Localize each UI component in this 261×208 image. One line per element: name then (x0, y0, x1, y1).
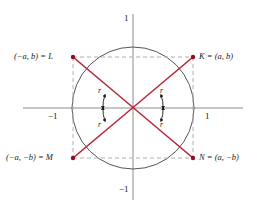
angle-label-lower-right: r (160, 121, 163, 129)
point-label-L: (−a, b) = L (14, 52, 53, 61)
point-label-N: N = (a, −b) (199, 153, 239, 162)
angle-label-upper-right: r (160, 87, 163, 95)
angle-label-lower-left: r (98, 121, 101, 129)
x-axis-tick-left: −1 (48, 112, 58, 121)
x-axis-tick-right: 1 (205, 112, 210, 121)
angle-label-upper-left: r (98, 87, 101, 95)
diagram-canvas (0, 0, 261, 208)
point-label-M: (−a, −b) = M (6, 153, 53, 162)
vertex-dot-N (191, 156, 195, 160)
point-label-K: K = (a, b) (199, 52, 233, 61)
figure-container: (−a, b) = L K = (a, b) (−a, −b) = M N = … (0, 0, 261, 208)
y-axis-tick-top: 1 (124, 14, 129, 23)
vertex-dot-K (191, 55, 195, 59)
vertex-dot-L (71, 55, 75, 59)
angle-arc-upper-right (161, 95, 163, 108)
angle-arc-lower-left (103, 108, 105, 121)
angle-arc-upper-left (103, 95, 105, 108)
vertex-dot-M (71, 156, 75, 160)
y-axis-tick-bottom: −1 (119, 185, 129, 194)
